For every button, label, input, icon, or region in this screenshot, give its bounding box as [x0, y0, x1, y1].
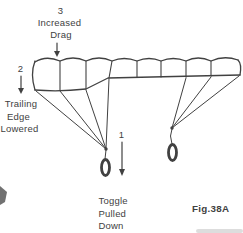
label-1-line1: Toggle: [99, 195, 128, 206]
suspension-line-1: [172, 78, 186, 128]
figure-caption: Fig.38A: [192, 203, 230, 214]
patent-figure-page: 3 Increased Drag 2 Trailing Edge Lowered…: [0, 0, 243, 233]
label-3-line1: Increased: [38, 17, 82, 28]
figure-38a-drawing: 3 Increased Drag 2 Trailing Edge Lowered…: [0, 0, 243, 233]
right-toggle-ring: [169, 145, 177, 161]
label-2-line3: Lowered: [1, 123, 39, 134]
right-toggle: [169, 126, 177, 160]
down-arrow-3-head-icon: [54, 51, 60, 57]
control-line-2: [60, 91, 106, 149]
canopy-right-edge: [238, 60, 241, 75]
label-1-line3: Down: [99, 220, 124, 231]
canopy-bottom-edge: [35, 75, 240, 91]
control-line-1: [36, 91, 106, 149]
left-toggle-stem: [105, 150, 106, 159]
canopy-left-edge: [33, 61, 36, 90]
left-toggle-ring: [102, 160, 110, 176]
scan-smear-bottom: [196, 229, 243, 233]
cell-divider-3: [109, 61, 112, 78]
label-2-line2: Edge: [7, 111, 30, 122]
label-2-line1: Trailing: [5, 98, 37, 109]
left-toggle: [102, 147, 110, 175]
right-toggle-stem: [171, 129, 173, 144]
label-1-line2: Pulled: [99, 208, 127, 219]
label-3-line2: Drag: [50, 29, 71, 40]
label-3-number: 3: [58, 5, 63, 16]
left-control-lines: [36, 79, 109, 149]
down-arrow-1-head-icon: [119, 169, 125, 176]
down-arrow-2-head-icon: [18, 88, 24, 94]
annotation-increased-drag: 3 Increased Drag: [38, 5, 82, 58]
control-line-4: [106, 79, 109, 149]
right-suspension-lines: [172, 76, 239, 128]
label-2-number: 2: [18, 63, 23, 74]
scan-smudge-left: [0, 186, 7, 205]
parachute-canopy: [33, 58, 241, 91]
label-1-number: 1: [119, 129, 124, 140]
